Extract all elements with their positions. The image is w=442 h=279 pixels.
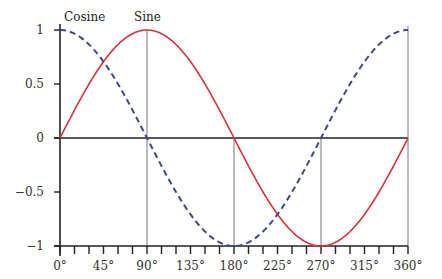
x-tick-label: 315° [350, 259, 379, 273]
axes [54, 24, 408, 256]
x-tick-label: 180° [220, 259, 249, 273]
x-tick-label: 360° [394, 259, 423, 273]
x-tick-label: 45° [93, 259, 114, 273]
sine-label: Sine [134, 10, 161, 24]
y-tick-label: 0 [36, 131, 44, 145]
cosine-label: Cosine [64, 10, 105, 24]
y-tick-label: −0.5 [15, 185, 44, 199]
x-tick-label: 90° [136, 259, 157, 273]
x-tick-label: 135° [176, 259, 205, 273]
x-tick-label: 0° [53, 259, 67, 273]
x-tick-label: 270° [307, 259, 336, 273]
y-tick-label: 1 [36, 23, 44, 37]
x-tick-label: 225° [263, 259, 292, 273]
sine-cosine-chart: 10.50−0.5−10°45°90°135°180°225°270°315°3… [0, 0, 442, 279]
y-tick-label: −1 [26, 239, 44, 253]
tick-labels: 10.50−0.5−10°45°90°135°180°225°270°315°3… [15, 23, 423, 273]
y-tick-label: 0.5 [25, 77, 44, 91]
